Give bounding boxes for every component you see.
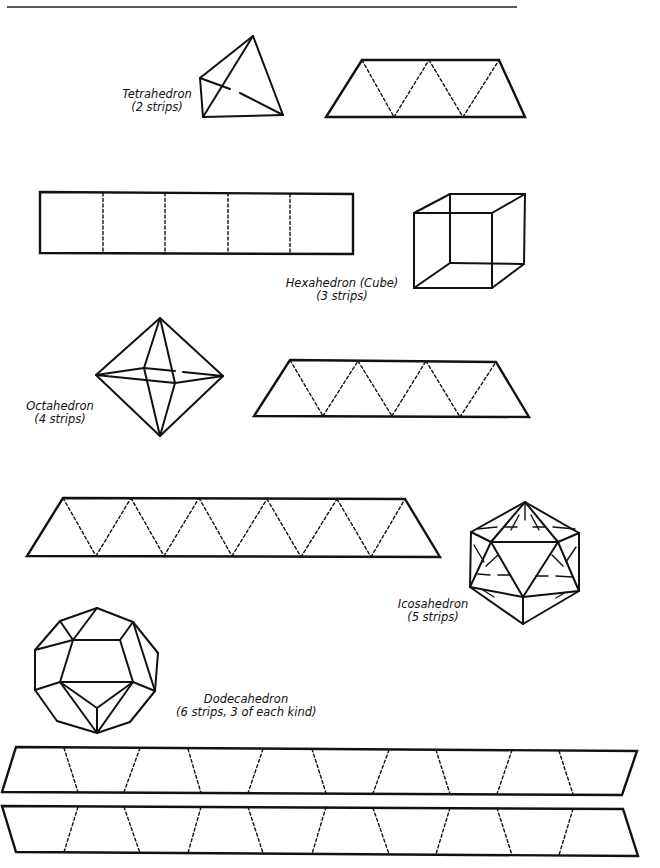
fold-line: [497, 750, 512, 794]
edge: [414, 263, 450, 288]
fold-line: [460, 362, 496, 417]
fold-line: [96, 498, 131, 556]
dodecahedron-strips: (6 strips, 3 of each kind): [176, 706, 316, 719]
edge: [144, 368, 160, 436]
fold-line: [559, 751, 573, 794]
edge: [120, 622, 133, 640]
edge: [492, 264, 524, 288]
edge: [60, 621, 73, 640]
hidden-edge: [478, 574, 490, 575]
edge: [200, 36, 253, 78]
edge: [183, 372, 223, 376]
edge: [96, 375, 160, 436]
fold-line: [463, 60, 499, 117]
hidden-edge: [566, 547, 576, 562]
hidden-edge: [556, 576, 572, 577]
fold-line: [188, 807, 201, 853]
fold-line: [248, 749, 263, 793]
fold-line: [232, 499, 267, 556]
octahedron-solid: [96, 318, 223, 436]
fold-line: [426, 361, 460, 417]
fold-line: [371, 499, 405, 557]
dodecahedron-label: Dodecahedron (6 strips, 3 of each kind): [176, 693, 316, 719]
fold-line: [64, 748, 78, 792]
edge: [558, 533, 579, 542]
edge: [470, 532, 471, 587]
octahedron-strip: [254, 360, 529, 417]
edge: [414, 194, 450, 213]
fold-line: [188, 749, 201, 793]
strip-outline: [27, 498, 440, 557]
fold-line: [124, 807, 140, 853]
fold-line: [394, 60, 429, 117]
tetrahedron-strip: [326, 60, 525, 117]
icosahedron-label: Icosahedron (5 strips): [388, 598, 478, 624]
edge: [523, 542, 558, 597]
edge: [35, 640, 73, 650]
edge: [60, 640, 73, 682]
fold-line: [559, 809, 573, 855]
edge: [160, 318, 223, 376]
tetrahedron-strips: (2 strips): [112, 101, 202, 114]
edge: [35, 690, 57, 721]
edge: [60, 682, 97, 708]
strip-outline: [2, 806, 638, 856]
fold-line: [290, 360, 323, 416]
fold-line: [312, 807, 326, 854]
icosahedron-strip: [27, 498, 440, 557]
edge: [60, 682, 97, 733]
edge: [130, 691, 155, 722]
tetrahedron-label: Tetrahedron (2 strips): [112, 88, 202, 114]
fold-line: [436, 808, 450, 854]
octahedron-label: Octahedron (4 strips): [22, 400, 98, 426]
fold-line: [429, 60, 463, 117]
fold-line: [358, 361, 392, 416]
fold-line: [124, 748, 140, 792]
hidden-edge: [474, 545, 484, 562]
fold-line: [199, 498, 232, 556]
fold-line: [373, 808, 389, 854]
edge: [471, 532, 491, 542]
fold-line: [373, 750, 389, 793]
edge: [524, 194, 525, 264]
fold-line: [337, 499, 371, 557]
edge: [57, 721, 97, 733]
dodecahedron-strip-1: [2, 747, 637, 795]
fold-line: [248, 807, 263, 853]
icosahedron-solid: [470, 502, 579, 624]
edge: [120, 640, 133, 682]
edge: [253, 36, 283, 115]
edge: [96, 375, 175, 383]
cube-solid: [414, 194, 525, 288]
edge: [144, 368, 175, 371]
edge: [491, 502, 525, 542]
fold-line: [164, 498, 199, 556]
edge: [558, 542, 579, 591]
fold-line: [323, 361, 358, 416]
edge: [97, 608, 133, 622]
edge: [97, 682, 133, 708]
edge: [97, 682, 133, 733]
strip-outline: [326, 60, 525, 117]
edge: [155, 653, 158, 691]
fold-line: [131, 498, 164, 556]
hidden-edge: [553, 527, 575, 529]
fold-line: [392, 361, 426, 416]
fold-line: [497, 808, 512, 855]
octahedron-strips: (4 strips): [22, 413, 98, 426]
edge: [133, 622, 155, 691]
edge: [450, 263, 524, 264]
cube-strip: [40, 192, 353, 254]
hidden-edge: [552, 555, 563, 566]
edge: [491, 542, 523, 597]
edge: [525, 502, 558, 542]
fold-line: [312, 749, 326, 793]
strip-outline: [40, 192, 353, 254]
tetrahedron-solid: [200, 36, 283, 117]
icosahedron-strips: (5 strips): [388, 611, 478, 624]
hexahedron-label: Hexahedron (Cube) (3 strips): [272, 277, 412, 303]
fold-line: [64, 807, 78, 852]
fold-line: [362, 60, 394, 117]
dodecahedron-strip-2: [2, 806, 638, 856]
edge: [203, 36, 253, 117]
